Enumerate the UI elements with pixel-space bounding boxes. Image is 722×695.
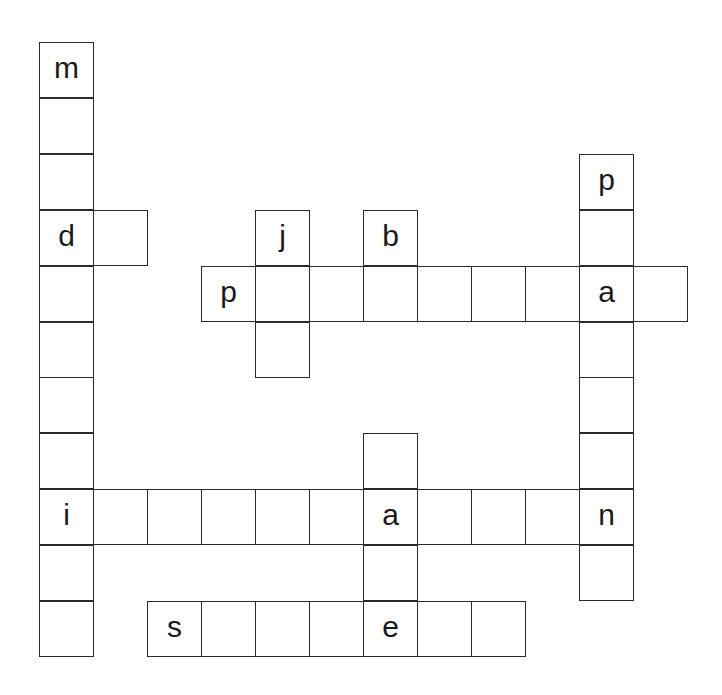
crossword-cell-r4-c8[interactable] (471, 266, 526, 322)
crossword-cell-r4-c0[interactable] (39, 266, 94, 322)
crossword-cell-r3-c6[interactable]: b (363, 210, 418, 266)
cell-letter: e (382, 612, 399, 642)
crossword-cell-r6-c0[interactable] (39, 377, 94, 433)
crossword-cell-r10-c8[interactable] (471, 601, 526, 657)
cell-letter: a (598, 277, 615, 307)
crossword-cell-r10-c5[interactable] (309, 601, 364, 657)
crossword-cell-r3-c10[interactable] (579, 210, 634, 266)
crossword-grid: mdijbpapnase (0, 0, 722, 695)
crossword-cell-r8-c2[interactable] (147, 489, 202, 545)
crossword-cell-r1-c0[interactable] (39, 98, 94, 154)
crossword-cell-r8-c4[interactable] (255, 489, 310, 545)
crossword-cell-r8-c8[interactable] (471, 489, 526, 545)
cell-letter: p (220, 277, 237, 307)
crossword-cell-r10-c2[interactable]: s (147, 601, 202, 657)
crossword-cell-r4-c7[interactable] (417, 266, 472, 322)
crossword-cell-r10-c6[interactable]: e (363, 601, 418, 657)
cell-letter: m (54, 53, 79, 83)
crossword-cell-r8-c0[interactable]: i (39, 489, 94, 545)
crossword-cell-r7-c6[interactable] (363, 433, 418, 489)
crossword-cell-r2-c10[interactable]: p (579, 154, 634, 210)
crossword-cell-r4-c9[interactable] (525, 266, 580, 322)
crossword-cell-r8-c6[interactable]: a (363, 489, 418, 545)
crossword-cell-r10-c7[interactable] (417, 601, 472, 657)
cell-letter: a (382, 500, 399, 530)
crossword-cell-r3-c4[interactable]: j (255, 210, 310, 266)
crossword-cell-r8-c5[interactable] (309, 489, 364, 545)
crossword-cell-r3-c0[interactable]: d (39, 210, 94, 266)
crossword-cell-r4-c5[interactable] (309, 266, 364, 322)
crossword-cell-r5-c4[interactable] (255, 322, 310, 378)
cell-letter: n (598, 500, 615, 530)
crossword-cell-r10-c0[interactable] (39, 601, 94, 657)
crossword-cell-r5-c10[interactable] (579, 322, 634, 378)
crossword-cell-r8-c7[interactable] (417, 489, 472, 545)
crossword-cell-r8-c1[interactable] (93, 489, 148, 545)
crossword-cell-r8-c9[interactable] (525, 489, 580, 545)
crossword-cell-r10-c4[interactable] (255, 601, 310, 657)
crossword-cell-r2-c0[interactable] (39, 154, 94, 210)
crossword-cell-r5-c0[interactable] (39, 322, 94, 378)
crossword-cell-r7-c10[interactable] (579, 433, 634, 489)
crossword-cell-r4-c10[interactable]: a (579, 266, 634, 322)
crossword-cell-r6-c10[interactable] (579, 377, 634, 433)
crossword-cell-r9-c10[interactable] (579, 545, 634, 601)
crossword-cell-r9-c0[interactable] (39, 545, 94, 601)
cell-letter: s (167, 612, 182, 642)
crossword-cell-r4-c6[interactable] (363, 266, 418, 322)
crossword-cell-r10-c3[interactable] (201, 601, 256, 657)
crossword-cell-r9-c6[interactable] (363, 545, 418, 601)
crossword-cell-r3-c1[interactable] (93, 210, 148, 266)
crossword-cell-r4-c3[interactable]: p (201, 266, 256, 322)
crossword-cell-r4-c11[interactable] (633, 266, 688, 322)
cell-letter: p (598, 165, 615, 195)
crossword-cell-r7-c0[interactable] (39, 433, 94, 489)
crossword-cell-r8-c10[interactable]: n (579, 489, 634, 545)
crossword-cell-r8-c3[interactable] (201, 489, 256, 545)
cell-letter: i (63, 500, 70, 530)
crossword-cell-r4-c4[interactable] (255, 266, 310, 322)
crossword-cell-r0-c0[interactable]: m (39, 42, 94, 98)
cell-letter: b (382, 221, 399, 251)
cell-letter: j (279, 221, 286, 251)
cell-letter: d (58, 221, 75, 251)
